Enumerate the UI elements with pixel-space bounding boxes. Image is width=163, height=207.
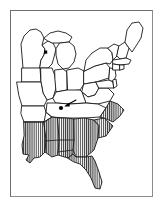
state-rhode-island <box>120 65 124 70</box>
wisconsin-locality-square <box>44 51 47 54</box>
us-east-distribution-map: Distribution map of the eastern United S… <box>0 0 163 207</box>
state-iowa <box>22 68 41 82</box>
northeast-states-group <box>84 22 143 71</box>
state-arkansas <box>21 106 46 122</box>
state-louisiana-shaded <box>22 122 46 163</box>
state-michigan-lower <box>56 42 76 69</box>
state-connecticut <box>113 64 120 70</box>
state-michigan-upper <box>44 31 72 43</box>
tennessee-locality-dot <box>59 106 63 110</box>
state-tennessee <box>46 103 106 118</box>
state-georgia-shaded <box>73 118 99 157</box>
state-indiana <box>55 69 67 92</box>
state-ohio <box>67 68 84 91</box>
figure-root: Distribution map of the eastern United S… <box>0 0 163 207</box>
state-mississippi-shaded <box>44 117 59 157</box>
state-maryland <box>96 80 114 88</box>
state-kentucky <box>53 90 86 104</box>
state-delaware <box>113 79 117 88</box>
state-florida-shaded <box>68 154 102 189</box>
